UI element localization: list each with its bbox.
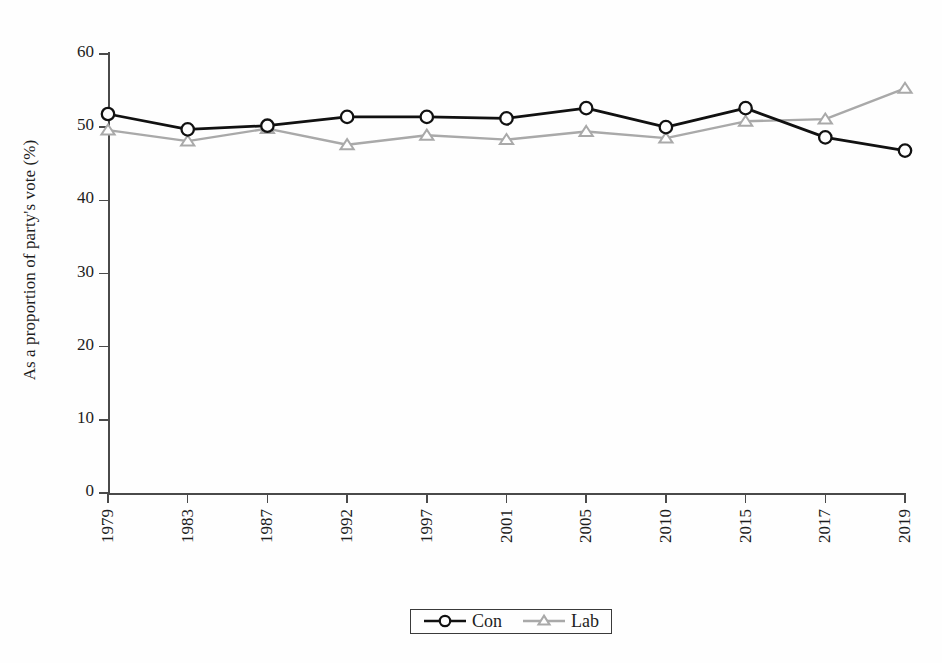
x-tick-mark [745, 494, 747, 503]
chart-legend: Con Lab [410, 609, 612, 634]
legend-marker-triangle-icon [522, 613, 566, 629]
x-tick-label: 2005 [576, 509, 596, 543]
x-tick-mark [426, 494, 428, 503]
y-tick-label: 20 [77, 335, 94, 355]
data-point-con-2010[interactable] [660, 121, 672, 133]
data-point-con-2019[interactable] [899, 144, 911, 156]
x-tick-mark [267, 494, 269, 503]
plot-area [108, 54, 905, 493]
y-tick-mark [99, 419, 108, 421]
legend-item-con[interactable]: Con [423, 611, 502, 632]
data-point-con-1987[interactable] [261, 120, 273, 132]
x-tick-mark [346, 494, 348, 503]
x-tick-label: 2010 [656, 509, 676, 543]
chart-page: As a proportion of party's vote (%) 0102… [0, 0, 942, 663]
legend-marker-circle-icon [423, 613, 467, 629]
data-point-con-1983[interactable] [182, 123, 194, 135]
legend-item-lab[interactable]: Lab [522, 611, 599, 632]
x-tick-label: 2001 [497, 509, 517, 543]
x-tick-mark [107, 494, 109, 503]
y-tick-label: 30 [77, 262, 94, 282]
y-tick-0: 0 [0, 493, 108, 494]
data-point-con-1979[interactable] [102, 108, 114, 120]
x-tick-mark [825, 494, 827, 503]
data-point-con-2005[interactable] [580, 102, 592, 114]
y-tick-10: 10 [0, 420, 108, 421]
series-con [102, 102, 911, 157]
y-tick-40: 40 [0, 200, 108, 201]
x-tick-mark [187, 494, 189, 503]
y-tick-mark [99, 346, 108, 348]
legend-label-con: Con [472, 611, 502, 632]
data-point-lab-2019[interactable] [898, 83, 911, 93]
legend-label-lab: Lab [571, 611, 599, 632]
y-tick-mark [99, 273, 108, 275]
x-tick-label: 1992 [337, 509, 357, 543]
data-point-con-2015[interactable] [739, 102, 751, 114]
y-tick-mark [99, 53, 108, 55]
y-tick-label: 10 [77, 408, 94, 428]
series-canvas [108, 54, 905, 493]
y-tick-label: 60 [77, 42, 94, 62]
data-point-con-1992[interactable] [341, 111, 353, 123]
y-tick-60: 60 [0, 54, 108, 55]
y-axis-title: As a proportion of party's vote (%) [0, 0, 60, 520]
data-point-con-2017[interactable] [819, 131, 831, 143]
data-point-con-1997[interactable] [421, 111, 433, 123]
x-tick-mark [665, 494, 667, 503]
y-tick-20: 20 [0, 347, 108, 348]
y-tick-mark [99, 200, 108, 202]
y-tick-label: 40 [77, 188, 94, 208]
y-tick-50: 50 [0, 127, 108, 128]
y-axis-title-text: As a proportion of party's vote (%) [20, 140, 40, 381]
x-tick-label: 1983 [178, 509, 198, 543]
y-tick-label: 0 [86, 481, 95, 501]
x-tick-label: 1997 [417, 509, 437, 543]
x-tick-mark [904, 494, 906, 503]
x-tick-label: 2017 [815, 509, 835, 543]
y-tick-label: 50 [77, 115, 94, 135]
data-point-con-2001[interactable] [500, 112, 512, 124]
x-tick-mark [585, 494, 587, 503]
x-tick-label: 2015 [736, 509, 756, 543]
x-tick-label: 1979 [98, 509, 118, 543]
y-tick-30: 30 [0, 274, 108, 275]
x-tick-label: 2019 [895, 509, 915, 543]
x-tick-label: 1987 [257, 509, 277, 543]
x-tick-mark [506, 494, 508, 503]
